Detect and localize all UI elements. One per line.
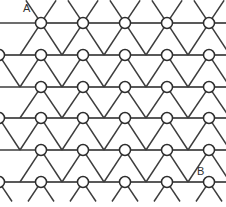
lattice-node <box>120 113 131 124</box>
lattice-nodes-group <box>0 18 215 188</box>
lattice-node <box>36 145 47 156</box>
lattice-node <box>162 177 173 188</box>
lattice-diagram <box>0 0 226 207</box>
lattice-node <box>162 113 173 124</box>
lattice-node <box>0 113 5 124</box>
lattice-node <box>36 177 47 188</box>
lattice-node <box>120 82 131 93</box>
lattice-node <box>36 82 47 93</box>
point-label-a: A <box>23 3 30 14</box>
lattice-node <box>204 145 215 156</box>
lattice-node <box>120 18 131 29</box>
lattice-node <box>78 50 89 61</box>
lattice-node <box>120 145 131 156</box>
lattice-node <box>36 18 47 29</box>
lattice-node <box>204 177 215 188</box>
lattice-bonds-group <box>0 0 226 201</box>
lattice-node <box>204 82 215 93</box>
lattice-node <box>204 18 215 29</box>
lattice-node <box>204 50 215 61</box>
lattice-node <box>78 145 89 156</box>
lattice-node <box>78 177 89 188</box>
lattice-node <box>162 82 173 93</box>
lattice-node <box>36 113 47 124</box>
lattice-node <box>204 113 215 124</box>
lattice-node <box>120 177 131 188</box>
figure-caption <box>0 203 226 207</box>
lattice-node <box>0 177 5 188</box>
lattice-figure: A B <box>0 0 226 207</box>
lattice-node <box>162 50 173 61</box>
lattice-node <box>36 50 47 61</box>
lattice-node <box>162 18 173 29</box>
point-label-b: B <box>197 166 204 177</box>
lattice-node <box>78 18 89 29</box>
lattice-node <box>78 113 89 124</box>
lattice-node <box>0 50 5 61</box>
lattice-node <box>120 50 131 61</box>
lattice-node <box>162 145 173 156</box>
lattice-node <box>78 82 89 93</box>
